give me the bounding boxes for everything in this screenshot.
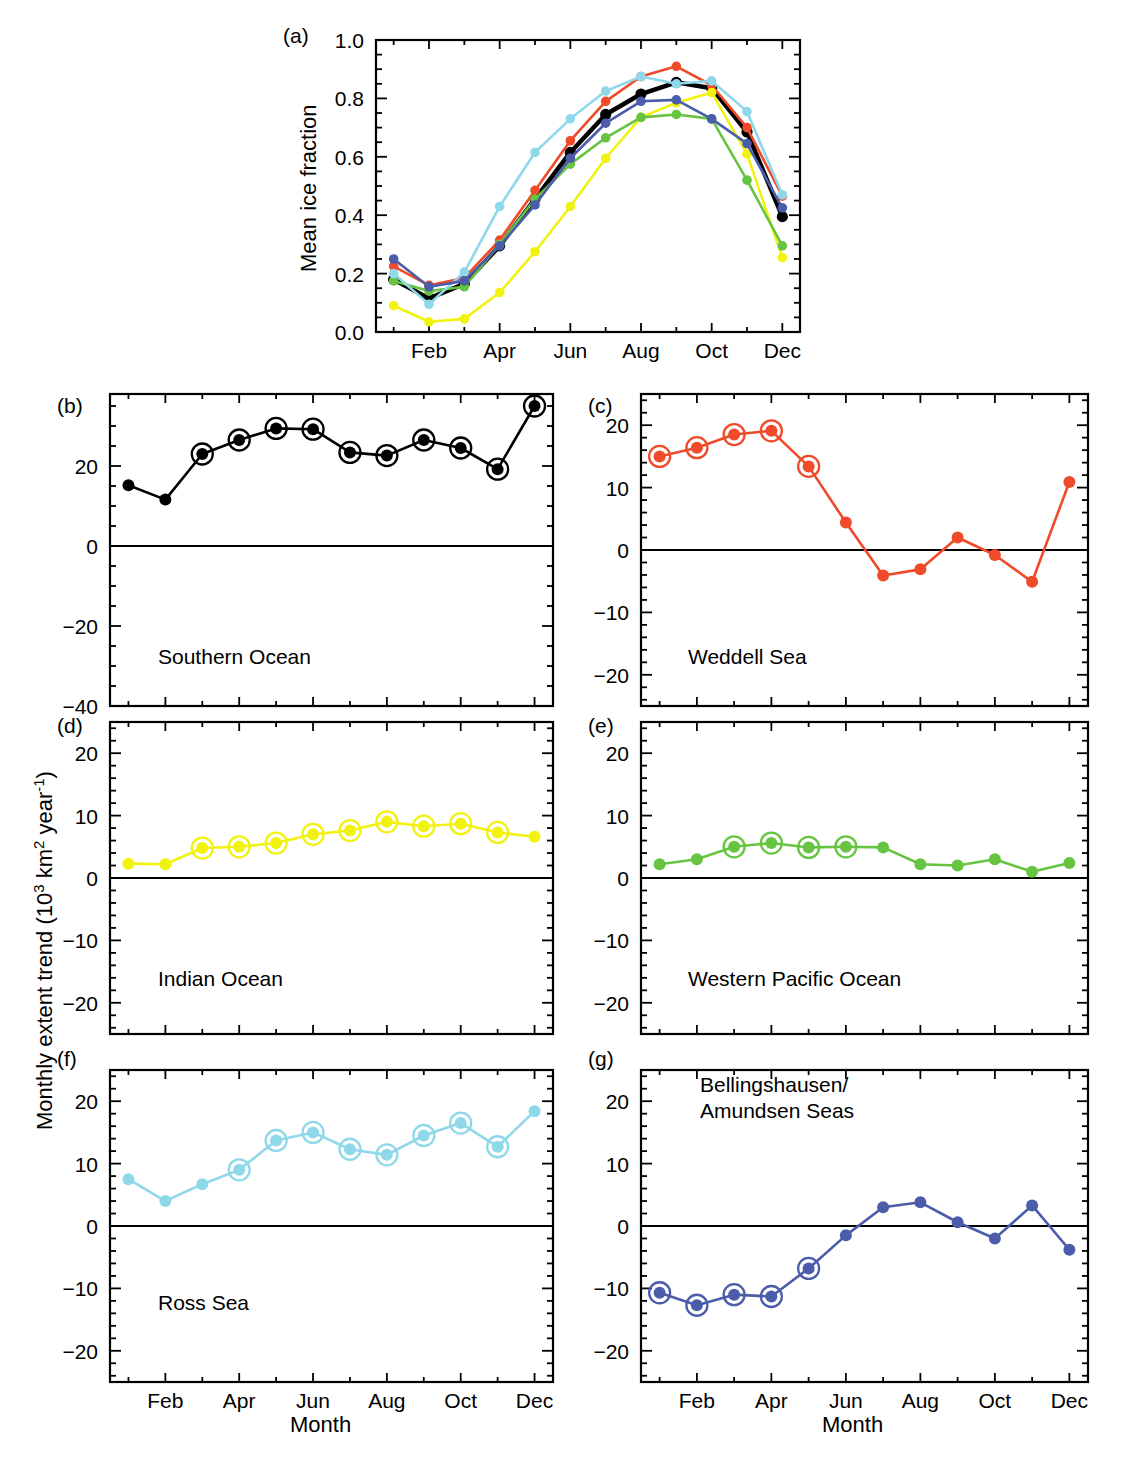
trend-line-ross_sea [128, 1111, 534, 1201]
y-tick-label: −20 [62, 992, 98, 1015]
data-point [307, 828, 319, 840]
data-point [654, 1287, 666, 1299]
y-tick-label: −10 [62, 929, 98, 952]
y-tick-label: 0 [86, 535, 98, 558]
x-tick-label: Feb [411, 339, 447, 362]
y-tick-label: 1.0 [335, 29, 364, 52]
data-point [159, 1195, 171, 1207]
data-point [803, 841, 815, 853]
data-point [455, 818, 467, 830]
data-point [778, 190, 788, 200]
data-point [728, 429, 740, 441]
y-tick-label: 0 [86, 1215, 98, 1238]
data-point [233, 841, 245, 853]
trend-line-western_pacific [660, 843, 1070, 872]
data-point [742, 107, 752, 117]
data-point [389, 269, 399, 279]
data-point [840, 517, 852, 529]
data-point [877, 570, 889, 582]
data-point [122, 858, 134, 870]
data-point [914, 1196, 926, 1208]
x-tick-label: Feb [147, 1389, 183, 1412]
data-point [765, 837, 777, 849]
y-tick-label: 0 [617, 539, 629, 562]
y-tick-label: −20 [593, 992, 629, 1015]
data-point [566, 114, 576, 124]
data-point [381, 450, 393, 462]
trend-line-southern_ocean [128, 406, 534, 500]
y-tick-label: 0 [617, 1215, 629, 1238]
data-point [196, 1178, 208, 1190]
data-point [840, 841, 852, 853]
data-point [270, 837, 282, 849]
data-point [636, 113, 646, 123]
data-point [1026, 866, 1038, 878]
y-tick-label: −10 [593, 601, 629, 624]
y-tick-label: 0.8 [335, 87, 364, 110]
data-point [460, 276, 470, 286]
y-tick-label: 10 [75, 805, 98, 828]
data-point [877, 841, 889, 853]
data-point [803, 460, 815, 472]
data-point [636, 72, 646, 82]
data-point [460, 314, 470, 324]
data-point [455, 1117, 467, 1129]
axis-frame [376, 40, 800, 332]
data-point [691, 853, 703, 865]
data-point [1063, 1244, 1075, 1256]
x-tick-label: Dec [516, 1389, 553, 1412]
data-point [778, 203, 788, 213]
data-point [122, 1173, 134, 1185]
data-point [159, 494, 171, 506]
y-tick-label: 0 [86, 867, 98, 890]
data-point [270, 1135, 282, 1147]
data-point [691, 1299, 703, 1311]
data-point [672, 61, 682, 71]
data-point [418, 434, 430, 446]
data-point [654, 450, 666, 462]
data-point [196, 448, 208, 460]
y-tick-label: −20 [593, 1340, 629, 1363]
data-point [344, 446, 356, 458]
data-point [530, 200, 540, 210]
panel-d: 20100−10−20 [62, 722, 553, 1034]
y-tick-label: 10 [606, 1153, 629, 1176]
y-tick-label: −10 [593, 1277, 629, 1300]
data-point [952, 1216, 964, 1228]
data-point [989, 853, 1001, 865]
data-point [778, 253, 788, 263]
panel-a: FebAprJunAugOctDec0.00.20.40.60.81.0 [335, 29, 801, 362]
data-point [914, 563, 926, 575]
data-point [1026, 1199, 1038, 1211]
data-point [492, 463, 504, 475]
data-point [529, 400, 541, 412]
y-tick-label: −20 [62, 615, 98, 638]
data-point [530, 247, 540, 257]
data-point [381, 1149, 393, 1161]
data-point [530, 186, 540, 196]
data-point [389, 301, 399, 311]
x-tick-label: Dec [764, 339, 801, 362]
data-point [989, 549, 1001, 561]
data-point [672, 79, 682, 89]
data-point [418, 820, 430, 832]
data-point [765, 425, 777, 437]
y-tick-label: 0.0 [335, 321, 364, 344]
data-point [344, 1143, 356, 1155]
y-tick-label: 0.2 [335, 263, 364, 286]
x-tick-label: Aug [622, 339, 659, 362]
data-point [600, 109, 611, 120]
series-line-bellingshausen_amundsen [394, 100, 783, 287]
data-point [455, 442, 467, 454]
data-point [566, 153, 576, 163]
data-point [530, 148, 540, 158]
y-tick-label: 20 [606, 742, 629, 765]
data-point [877, 1201, 889, 1213]
data-point [307, 1126, 319, 1138]
data-point [529, 831, 541, 843]
data-point [1063, 476, 1075, 488]
y-tick-label: −10 [593, 929, 629, 952]
data-point [742, 175, 752, 185]
series-line-ross_sea [394, 77, 783, 305]
x-tick-label: Apr [755, 1389, 788, 1412]
